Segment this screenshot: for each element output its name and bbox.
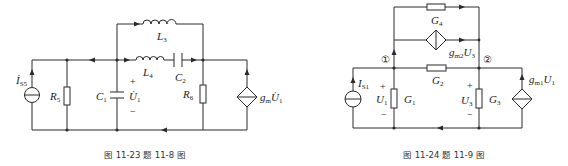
label-is1: IS1: [357, 77, 370, 91]
label-u1: U1: [376, 93, 388, 107]
label-iss: İS5: [15, 74, 28, 88]
arrow-l3: [134, 22, 140, 27]
caption-fig-11-23: 图 11-23 题 11-8 图: [104, 150, 186, 160]
label-u1: U̇1: [129, 90, 141, 104]
figure-11-23: İS5 R5 C1 + U̇1 − L3 L4 C2 R6: [15, 20, 283, 161]
capacitor-c2: [174, 53, 182, 67]
arrow-bottom: [161, 128, 167, 133]
dependent-current-source-gm2: [426, 30, 465, 50]
arrow-top-left: [89, 58, 95, 63]
arrow-bottom-right: [437, 126, 443, 131]
label-g4: G4: [431, 14, 443, 28]
conductance-g1: [391, 89, 397, 108]
conductance-g4: [427, 4, 445, 10]
label-c2: C2: [175, 71, 186, 85]
plus-u1: +: [130, 76, 136, 87]
plus-u1: +: [380, 81, 386, 92]
dependent-current-source-gm: [237, 69, 257, 107]
inductor-l4: [136, 57, 164, 60]
label-l3: L3: [156, 30, 167, 44]
capacitor-c1: [110, 92, 124, 98]
label-l4: L4: [142, 66, 153, 80]
label-c1: C1: [96, 90, 107, 104]
resistor-r5: [64, 87, 70, 105]
caption-fig-11-24: 图 11-24 题 11-9 图: [403, 150, 485, 160]
inductor-l3: [143, 20, 176, 25]
node-2-label: ②: [483, 54, 492, 65]
minus-u1: −: [130, 106, 136, 117]
arrow-l4: [124, 58, 130, 63]
conductance-g2: [427, 65, 446, 71]
node-1-label: ①: [381, 54, 390, 65]
label-g2: G2: [432, 74, 444, 88]
figure-11-24: G4 gm2U3 ① ② G2 IS1 + U1 − G1: [345, 4, 555, 160]
label-gm1-u1: gm1U1: [529, 73, 555, 87]
label-gm-u1: gmU̇1: [260, 91, 283, 105]
conductance-g3: [476, 89, 482, 108]
label-g3: G3: [489, 93, 501, 107]
plus-u3: +: [467, 80, 473, 91]
minus-u1: −: [381, 109, 387, 120]
label-u3: U3: [461, 94, 473, 108]
label-gm2-u3: gm2U3: [449, 46, 475, 60]
wires-left: [32, 24, 247, 130]
resistor-r6: [200, 85, 206, 103]
arrow-g4: [459, 5, 465, 10]
label-r5: R5: [49, 90, 61, 104]
label-r6: R6: [182, 88, 194, 102]
arrow-c2: [191, 58, 197, 63]
label-g1: G1: [404, 93, 416, 107]
circuit-diagrams: İS5 R5 C1 + U̇1 − L3 L4 C2 R6: [0, 0, 568, 166]
arrow-node1-up: [392, 49, 397, 55]
minus-u3: −: [467, 109, 473, 120]
